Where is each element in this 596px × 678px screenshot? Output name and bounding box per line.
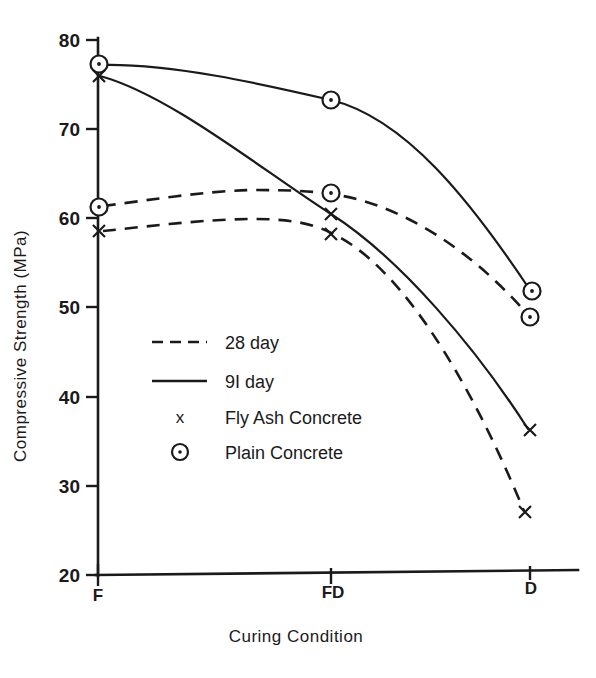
legend-label-plain-concrete: Plain Concrete (225, 443, 343, 463)
y-tick-label-20: 20 (59, 565, 80, 586)
legend-x-marker-icon: x (176, 408, 185, 427)
series-28day-flyash-line (103, 219, 524, 511)
x-axis-title: Curing Condition (229, 627, 364, 646)
legend-label-fly-ash-concrete: Fly Ash Concrete (225, 408, 362, 428)
x-tick-label-FD: FD (322, 583, 345, 602)
marker-91day-flyash-D (524, 424, 536, 436)
marker-28day-plain-D (522, 309, 539, 326)
y-tick-label-70: 70 (59, 119, 80, 140)
marker-28day-flyash-D (519, 506, 531, 518)
legend-label-91day: 9I day (225, 372, 274, 392)
x-tick-label-F: F (93, 586, 103, 605)
marker-28day-flyash-FD (325, 228, 337, 240)
legend-circle-dot-marker-icon (172, 444, 188, 460)
marker-28day-plain-FD (323, 185, 340, 202)
marker-91day-plain-D (524, 283, 541, 300)
y-tick-label-80: 80 (59, 30, 80, 51)
chart-figure: Compressive Strength (MPa) 80 70 60 50 4… (0, 0, 596, 678)
x-tick-label-D: D (525, 579, 537, 598)
x-axis-tick-labels: F FD D (93, 579, 537, 605)
y-axis-tick-labels: 80 70 60 50 40 30 20 (59, 30, 80, 586)
x-axis-line (96, 570, 578, 575)
marker-91day-plain-FD (323, 92, 340, 109)
marker-91day-flyash-FD (325, 208, 337, 220)
y-tick-label-60: 60 (59, 208, 80, 229)
y-tick-label-30: 30 (59, 476, 80, 497)
chart-legend: 28 day 9I day x Fly Ash Concrete Plain C… (152, 333, 362, 463)
chart-svg: Compressive Strength (MPa) 80 70 60 50 4… (0, 0, 596, 678)
marker-28day-plain-F (91, 199, 108, 216)
y-axis-ticks (86, 40, 98, 575)
legend-label-28day: 28 day (225, 333, 279, 353)
y-tick-label-40: 40 (59, 387, 80, 408)
series-28day-plain-line (103, 190, 528, 315)
y-axis-title: Compressive Strength (MPa) (11, 230, 30, 462)
y-tick-label-50: 50 (59, 297, 80, 318)
